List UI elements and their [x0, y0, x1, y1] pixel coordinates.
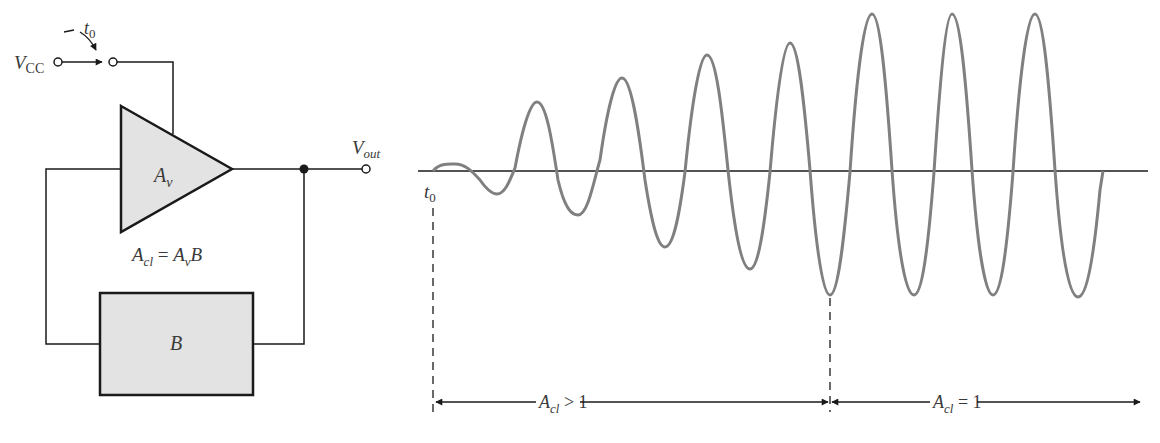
feedback-block-label: B: [170, 332, 182, 354]
vout-terminal[interactable]: [362, 165, 370, 173]
oscillator-startup-figure: VCC t0 Av Vout Acl = AvB B: [0, 0, 1160, 443]
region1-label: Acl > 1: [538, 392, 588, 416]
amplifier-triangle: [121, 106, 232, 232]
switch-dash: [64, 30, 74, 32]
vout-label: Vout: [352, 137, 381, 161]
figure-canvas: VCC t0 Av Vout Acl = AvB B: [0, 0, 1160, 443]
start-time-label: t0: [424, 181, 436, 205]
vout-waveform: [433, 14, 1103, 297]
switch-time-label: t0: [84, 18, 96, 41]
vcc-label: VCC: [14, 52, 44, 76]
oscillator-circuit: VCC t0 Av Vout Acl = AvB B: [14, 18, 381, 395]
startup-switch[interactable]: t0: [54, 18, 117, 66]
feedback-wire-right: [253, 169, 304, 344]
closed-loop-gain-equation: Acl = AvB: [130, 244, 203, 269]
switch-terminal: [109, 58, 117, 66]
output-waveform-plot: t0 Acl > 1 Acl = 1: [418, 14, 1148, 416]
region2-label: Acl = 1: [932, 392, 982, 416]
vcc-terminal: [54, 58, 62, 66]
